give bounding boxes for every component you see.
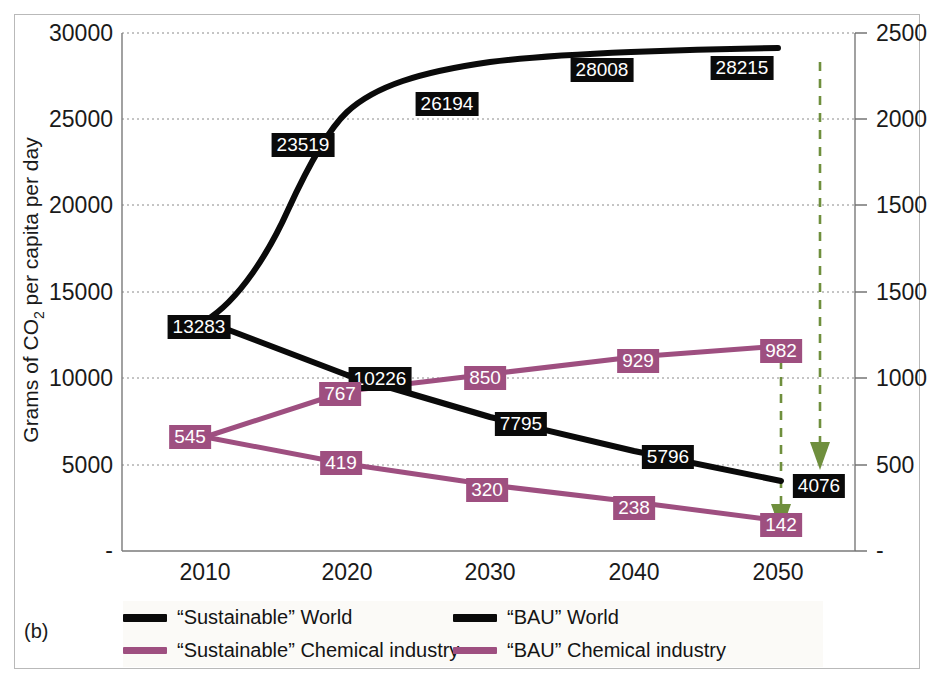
x-axis-tick-labels: 2010 2020 2030 2040 2050 [179, 559, 803, 585]
right-tick-0: 2500 [876, 20, 927, 46]
x-tick-2030: 2030 [464, 559, 515, 585]
left-axis-tick-labels: 30000 25000 20000 15000 10000 5000 - [49, 20, 113, 563]
legend-label-sustainable-world: “Sustainable” World [177, 606, 352, 629]
series-sustainable-world-line [205, 321, 781, 481]
x-tick-2040: 2040 [608, 559, 659, 585]
data-label-bau-chem-2050: 982 [760, 339, 802, 363]
data-label-chem-2010: 545 [169, 425, 211, 449]
legend-sustainable-chemical[interactable]: “Sustainable” Chemical industry [123, 639, 453, 662]
left-tick-4: 10000 [49, 365, 113, 391]
data-label-bau-world-2040: 28008 [571, 58, 634, 82]
legend-line-icon-sustainable-world [123, 614, 167, 622]
legend-row-chemical: “Sustainable” Chemical industry “BAU” Ch… [123, 634, 823, 667]
data-label-sus-world-2040: 5796 [642, 445, 694, 469]
right-tick-4: 500 [876, 452, 914, 478]
right-tick-3: 1000 [876, 365, 927, 391]
left-tick-1: 25000 [49, 106, 113, 132]
y-axis-title-pre: Grams of CO [19, 319, 42, 443]
data-label-bau-chem-2020: 767 [319, 382, 361, 406]
svg-text:Grams of CO2 per capita per da: Grams of CO2 per capita per day [19, 137, 47, 443]
legend-bau-chemical[interactable]: “BAU” Chemical industry [453, 639, 726, 662]
gridlines [122, 33, 855, 465]
series-bau-chemical-line [205, 346, 781, 437]
arrow-world-reduction-head [810, 442, 830, 470]
right-tick-1: 2000 [876, 106, 927, 132]
legend-line-icon-bau-chemical [453, 647, 497, 654]
y-axis-title-post: per capita per day [19, 137, 42, 311]
legend-sustainable-world[interactable]: “Sustainable” World [123, 606, 453, 629]
left-tick-0: 30000 [49, 20, 113, 46]
legend-line-icon-sustainable-chemical [123, 647, 167, 654]
data-label-sus-chem-2020: 419 [320, 451, 362, 475]
data-label-bau-chem-2030: 850 [464, 366, 506, 390]
series-bau-world-line [205, 48, 778, 321]
data-label-sus-world-2030: 7795 [495, 412, 547, 436]
left-tick-5: 5000 [62, 452, 113, 478]
left-tick-3: 15000 [49, 279, 113, 305]
data-label-sus-chem-2050: 142 [760, 513, 802, 537]
y-axis-title: Grams of CO2 per capita per day [19, 137, 47, 443]
chart-legend: “Sustainable” World “BAU” World “Sustain… [123, 601, 823, 667]
left-tick-2: 20000 [49, 192, 113, 218]
legend-row-world: “Sustainable” World “BAU” World [123, 601, 823, 634]
data-label-bau-world-2050: 28215 [711, 56, 774, 80]
data-label-bau-world-2020: 23519 [272, 133, 335, 157]
figure-container: Grams of CO2 per capita per day 30000 25… [0, 0, 936, 684]
data-label-sus-world-2050: 4076 [793, 474, 845, 498]
x-tick-2050: 2050 [752, 559, 803, 585]
data-label-sus-chem-2030: 320 [466, 478, 508, 502]
data-label-sus-chem-2040: 238 [613, 496, 655, 520]
y-axis-title-sub: 2 [31, 311, 47, 319]
right-tick-2: 1500 [876, 192, 927, 218]
data-label-bau-chem-2040: 929 [617, 349, 659, 373]
right-tick-1500: 1500 [876, 279, 927, 305]
right-tick-5: - [876, 537, 884, 563]
legend-bau-world[interactable]: “BAU” World [453, 606, 619, 629]
legend-label-bau-chemical: “BAU” Chemical industry [507, 639, 726, 662]
x-tick-2010: 2010 [179, 559, 230, 585]
panel-label: (b) [24, 620, 48, 643]
left-tick-6: - [105, 537, 113, 563]
legend-label-bau-world: “BAU” World [507, 606, 619, 629]
legend-line-icon-bau-world [453, 614, 497, 622]
reduction-arrows [771, 62, 830, 532]
data-label-world-2010: 13283 [168, 315, 231, 339]
x-tick-2020: 2020 [321, 559, 372, 585]
data-label-bau-world-2030: 26194 [416, 92, 479, 116]
right-axis-ticks [855, 33, 867, 551]
legend-label-sustainable-chemical: “Sustainable” Chemical industry [177, 639, 459, 662]
